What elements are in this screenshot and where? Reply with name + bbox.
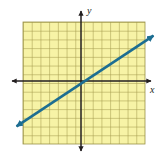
x-axis-label: x — [150, 85, 154, 95]
coordinate-plane-figure: x y — [0, 0, 162, 162]
y-axis-label: y — [87, 6, 91, 16]
graph-canvas — [0, 0, 162, 162]
